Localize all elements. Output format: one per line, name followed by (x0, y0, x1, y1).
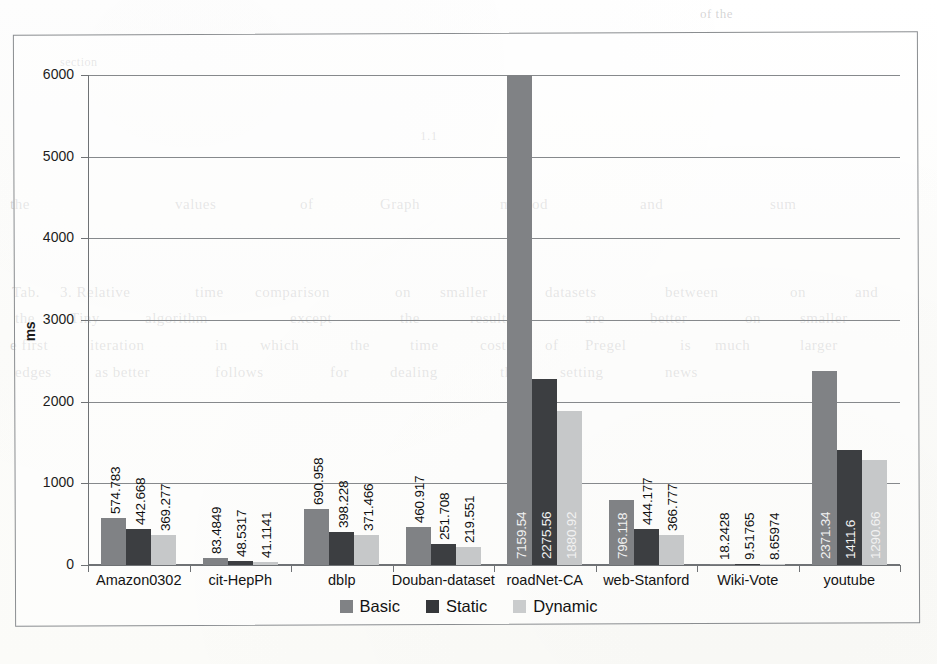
bar-value-label: 369.277 (158, 483, 173, 530)
bar-value-label: 796.118 (615, 513, 630, 559)
x-tick-mark (190, 565, 191, 572)
bar-slot: 1880.92 (557, 75, 582, 565)
bar-value-label: 574.783 (108, 467, 123, 514)
bar-group: 796.118444.177366.777 (596, 75, 698, 565)
x-tick-mark (393, 565, 394, 572)
bar-slot: 8.65974 (760, 75, 785, 565)
legend-swatch-icon (426, 600, 439, 613)
x-tick-label: Wiki-Vote (717, 572, 778, 588)
bar-value-label: 48.5317 (234, 510, 249, 557)
bar-group-bars: 574.783442.668369.277 (88, 75, 190, 565)
bar-slot: 796.118 (609, 75, 634, 565)
x-tick-label: youtube (823, 572, 875, 588)
bar-slot: 2371.34 (812, 75, 837, 565)
bar-value-label: 1880.92 (564, 512, 579, 559)
bar-slot: 83.4849 (203, 75, 228, 565)
bar-slot: 442.668 (126, 75, 151, 565)
legend-swatch-icon (340, 600, 353, 613)
bar-slot: 460.917 (406, 75, 431, 565)
bar-static[interactable] (329, 532, 354, 565)
bar-slot: 690.958 (304, 75, 329, 565)
x-tick-label: web-Stanford (603, 572, 689, 588)
bar-value-label: 41.1141 (259, 511, 274, 557)
bar-group-bars: 18.24289.517658.65974 (697, 75, 799, 565)
bar-basic[interactable] (304, 509, 329, 565)
bar-group: 2371.341411.61290.66 (799, 75, 901, 565)
bar-value-label: 366.777 (665, 484, 680, 531)
bar-basic[interactable] (710, 564, 735, 565)
bar-dynamic[interactable] (253, 562, 278, 565)
x-tick-mark (88, 565, 89, 572)
bar-value-label: 1290.66 (868, 512, 883, 559)
bar-value-label: 371.466 (361, 483, 376, 530)
bar-basic[interactable] (101, 518, 126, 565)
bar-value-label: 7159.54 (514, 512, 529, 559)
bar-value-label: 9.51765 (742, 513, 757, 560)
bar-value-label: 444.177 (640, 477, 655, 524)
bar-group: 83.484948.531741.1141 (190, 75, 292, 565)
bar-value-label: 398.228 (336, 481, 351, 528)
bar-slot: 371.466 (354, 75, 379, 565)
chart-legend: BasicStaticDynamic (0, 597, 937, 616)
bar-slot: 1290.66 (862, 75, 887, 565)
bar-slot: 18.2428 (710, 75, 735, 565)
x-tick-label: Douban-dataset (392, 572, 495, 588)
bar-slot: 369.277 (151, 75, 176, 565)
bar-static[interactable] (126, 529, 151, 565)
bar-slot: 9.51765 (735, 75, 760, 565)
bar-value-label: 219.551 (462, 496, 477, 543)
x-tick-mark (596, 565, 597, 572)
bar-static[interactable] (634, 529, 659, 565)
bar-static[interactable] (228, 561, 253, 565)
bar-value-label: 2371.34 (818, 512, 833, 559)
bar-group-bars: 7159.542275.561880.92 (494, 75, 596, 565)
bar-group: 690.958398.228371.466 (291, 75, 393, 565)
bar-dynamic[interactable] (659, 535, 684, 565)
bar-static[interactable] (735, 564, 760, 565)
bar-value-label: 1411.6 (843, 520, 858, 559)
bar-basic[interactable] (406, 527, 431, 565)
x-tick-label: dblp (328, 572, 355, 588)
bar-basic[interactable] (203, 558, 228, 565)
bar-group-bars: 460.917251.708219.551 (393, 75, 495, 565)
legend-label: Dynamic (533, 597, 597, 616)
y-tick-label: 5000 (28, 148, 74, 164)
bar-value-label: 83.4849 (209, 507, 224, 554)
bar-value-label: 8.65974 (767, 513, 782, 560)
bar-dynamic[interactable] (456, 547, 481, 565)
bar-slot: 366.777 (659, 75, 684, 565)
bar-dynamic[interactable] (354, 535, 379, 565)
bar-group-bars: 690.958398.228371.466 (291, 75, 393, 565)
bar-value-label: 690.958 (311, 457, 326, 504)
y-tick-label: 6000 (28, 66, 74, 82)
bar-group-bars: 2371.341411.61290.66 (799, 75, 901, 565)
legend-item-dynamic[interactable]: Dynamic (513, 597, 597, 616)
legend-label: Basic (360, 597, 400, 616)
bar-static[interactable] (431, 544, 456, 565)
legend-item-basic[interactable]: Basic (340, 597, 400, 616)
bar-group-bars: 83.484948.531741.1141 (190, 75, 292, 565)
bar-slot: 48.5317 (228, 75, 253, 565)
legend-swatch-icon (513, 600, 526, 613)
bar-basic[interactable] (507, 75, 532, 565)
x-tick-mark (900, 565, 901, 572)
legend-label: Static (446, 597, 487, 616)
bar-slot: 219.551 (456, 75, 481, 565)
bar-dynamic[interactable] (760, 564, 785, 565)
legend-item-static[interactable]: Static (426, 597, 487, 616)
bar-group: 7159.542275.561880.92 (494, 75, 596, 565)
bar-slot: 2275.56 (532, 75, 557, 565)
y-tick-label: 4000 (28, 229, 74, 245)
bar-group: 574.783442.668369.277 (88, 75, 190, 565)
bar-value-label: 251.708 (437, 493, 452, 540)
x-tick-mark (291, 565, 292, 572)
bar-dynamic[interactable] (151, 535, 176, 565)
x-tick-mark (799, 565, 800, 572)
x-tick-label: Amazon0302 (96, 572, 181, 588)
bar-slot: 574.783 (101, 75, 126, 565)
bar-slot: 251.708 (431, 75, 456, 565)
bar-slot: 1411.6 (837, 75, 862, 565)
bar-chart: ms 0100020003000400050006000 574.783442.… (0, 0, 937, 664)
y-tick-label: 0 (28, 556, 74, 572)
x-tick-mark (494, 565, 495, 572)
